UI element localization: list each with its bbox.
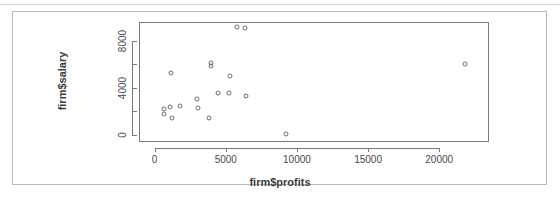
data-point <box>228 74 233 79</box>
data-point <box>169 71 174 76</box>
x-tick-label: 10000 <box>283 155 311 165</box>
x-tick <box>297 148 298 152</box>
x-tick <box>155 148 156 152</box>
figure-root: 05000100001500020000 040008000 firm$prof… <box>0 0 560 206</box>
data-point <box>284 132 289 137</box>
x-tick-label: 15000 <box>354 155 382 165</box>
x-tick-label: 20000 <box>425 155 453 165</box>
y-axis-title: firm$salary <box>56 52 68 111</box>
data-point <box>170 115 175 120</box>
y-tick <box>132 64 137 65</box>
y-tick <box>132 88 137 89</box>
x-axis-title: firm$profits <box>0 176 560 188</box>
x-tick-label: 5000 <box>215 155 237 165</box>
y-tick <box>132 41 137 42</box>
data-point <box>243 93 248 98</box>
data-point <box>235 25 240 30</box>
x-tick-label: 0 <box>152 155 158 165</box>
data-point <box>462 62 467 67</box>
x-tick <box>439 148 440 152</box>
y-tick <box>132 111 137 112</box>
data-point <box>208 64 213 69</box>
y-tick-label: 4000 <box>118 77 128 99</box>
data-point <box>168 105 173 110</box>
x-tick <box>226 148 227 152</box>
y-tick <box>132 135 137 136</box>
data-point <box>195 97 200 102</box>
data-point <box>196 106 201 111</box>
data-point <box>227 91 232 96</box>
data-point <box>215 90 220 95</box>
data-point <box>242 26 247 31</box>
y-tick-label: 8000 <box>118 30 128 52</box>
x-tick <box>368 148 369 152</box>
data-point <box>206 116 211 121</box>
plot-box <box>139 22 489 142</box>
data-point <box>178 104 183 109</box>
plot-area: 05000100001500020000 040008000 firm$prof… <box>0 0 560 206</box>
y-tick-label: 0 <box>118 132 128 138</box>
data-point <box>161 111 166 116</box>
